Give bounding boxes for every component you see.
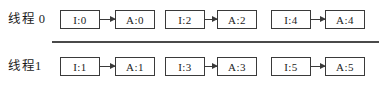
thread0-label: 线程 0 [8, 10, 45, 29]
node-box: A:2 [217, 10, 257, 29]
node-box: A:5 [325, 57, 365, 76]
pair-thread0-1: I:2 A:2 [165, 10, 257, 29]
pair-thread0-2: I:4 A:4 [271, 10, 365, 29]
thread1-label: 线程1 [8, 57, 42, 76]
pair-thread1-1: I:3 A:3 [165, 57, 257, 76]
thread-interleaving-diagram: 线程 0 I:0 A:0 I:2 A:2 I:4 A:4 线程1 I:1 A:1… [0, 0, 391, 86]
pair-thread0-0: I:0 A:0 [60, 10, 155, 29]
node-box: I:0 [60, 10, 100, 29]
pair-thread1-2: I:5 A:5 [271, 57, 365, 76]
arrow-right-icon [311, 19, 325, 20]
arrow-right-icon [205, 66, 217, 67]
node-box: A:1 [115, 57, 155, 76]
thread-row-divider [52, 41, 379, 43]
arrow-right-icon [311, 66, 325, 67]
node-box: I:4 [271, 10, 311, 29]
node-box: A:0 [115, 10, 155, 29]
arrow-right-icon [205, 19, 217, 20]
node-box: I:2 [165, 10, 205, 29]
node-box: I:3 [165, 57, 205, 76]
arrow-right-icon [100, 66, 115, 67]
node-box: I:5 [271, 57, 311, 76]
node-box: A:4 [325, 10, 365, 29]
node-box: A:3 [217, 57, 257, 76]
node-box: I:1 [60, 57, 100, 76]
arrow-right-icon [100, 19, 115, 20]
pair-thread1-0: I:1 A:1 [60, 57, 155, 76]
